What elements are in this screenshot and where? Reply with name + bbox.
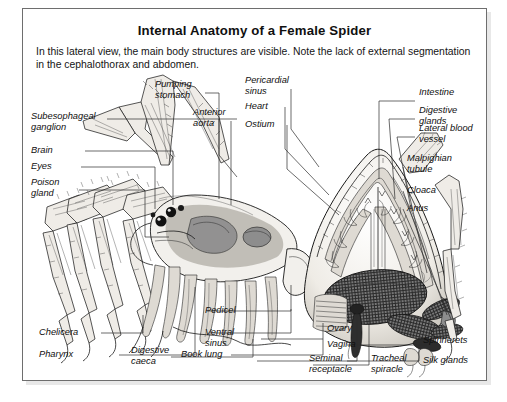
- label-anus: Anus: [407, 203, 428, 214]
- label-book-lung: Book lung: [181, 349, 222, 360]
- label-silk-glands: Silk glands: [423, 355, 468, 366]
- label-seminal-receptacle: Seminal receptacle: [309, 353, 352, 374]
- label-ostium: Ostium: [245, 119, 274, 130]
- figure-plate: Internal Anatomy of a Female Spider In t…: [22, 8, 487, 381]
- label-eyes: Eyes: [31, 161, 52, 172]
- label-pedicel: Pedicel: [205, 305, 236, 316]
- label-tracheal-spiracle: Tracheal spiracle: [371, 353, 406, 374]
- label-ventral-sinus: Ventral sinus: [205, 327, 234, 348]
- label-ovary: Ovary: [327, 323, 352, 334]
- label-pericardial-sinus: Pericardial sinus: [245, 75, 289, 96]
- label-digestive-caeca: Digestive caeca: [131, 345, 169, 366]
- figure-root: Internal Anatomy of a Female Spider In t…: [0, 0, 507, 402]
- label-subesophageal-ganglion: Subesophageal ganglion: [31, 111, 96, 132]
- label-cloaca: Cloaca: [407, 185, 436, 196]
- label-chelicera: Chelicera: [39, 327, 78, 338]
- label-heart: Heart: [245, 101, 268, 112]
- label-intestine: Intestine: [419, 87, 454, 98]
- label-vagina: Vagina: [327, 339, 356, 350]
- label-poison-gland: Poison gland: [31, 177, 59, 198]
- label-anterior-aorta: Anterior aorta: [193, 107, 226, 128]
- label-pumping-stomach: Pumping stomach: [155, 79, 192, 100]
- label-brain: Brain: [31, 145, 53, 156]
- label-pharynx: Pharynx: [39, 349, 73, 360]
- label-spinnerets: Spinnerets: [423, 335, 467, 346]
- label-malpighian-tubule: Malpighian tubule: [407, 153, 452, 174]
- label-lateral-blood-vessel: Lateral blood vessel: [419, 123, 486, 144]
